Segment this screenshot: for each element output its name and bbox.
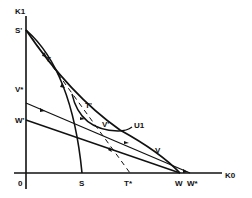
point-s-label: S (79, 179, 85, 188)
origin-label: 0 (18, 179, 23, 188)
point-v-prime-label: V' (102, 120, 109, 129)
y-axis-label: K1 (15, 7, 26, 16)
point-t-star-label: T* (124, 179, 133, 188)
diagram-canvas: K1 K0 0 S T* W W* S' V* W' T T' V' V U1 (0, 0, 252, 198)
arrow-icon (124, 141, 129, 144)
point-w-star-label: W* (187, 179, 199, 188)
point-v-star-label: V* (15, 85, 24, 94)
indifference-curve-label: U1 (134, 121, 145, 130)
line-v-star-w-star (26, 103, 190, 173)
point-w-label: W (175, 179, 183, 188)
point-w-prime-label: W' (15, 116, 25, 125)
point-v-label: V (155, 146, 161, 155)
point-t-label: T (46, 55, 51, 64)
x-axis-label: K0 (225, 171, 236, 180)
point-s-prime-label: S' (15, 26, 22, 35)
point-t-prime-label: T' (85, 101, 92, 110)
